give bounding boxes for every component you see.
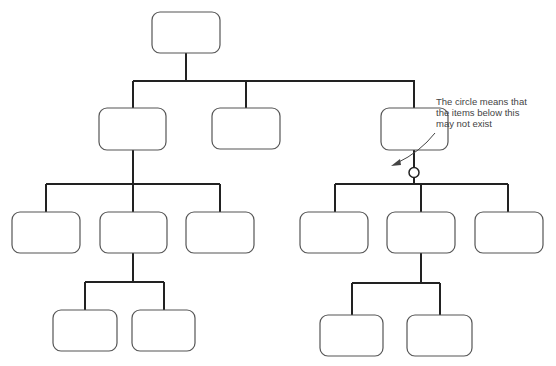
annotation-line-3: may not exist: [436, 118, 556, 129]
node-l2-right-3: [475, 212, 543, 253]
tree-diagram: [0, 0, 556, 366]
node-l2-left-1: [12, 212, 80, 253]
node-l1-middle: [212, 108, 280, 149]
node-l2-right-2: [387, 212, 455, 253]
node-l2-left-2: [100, 212, 167, 253]
arrowhead-icon: [391, 159, 401, 166]
node-root: [152, 12, 220, 53]
optional-circle-icon: [409, 168, 419, 178]
node-l3-right-2: [407, 315, 472, 356]
connectors: [46, 53, 508, 315]
node-l3-right-1: [320, 315, 383, 356]
node-l3-left-1: [53, 310, 117, 351]
node-l2-right-1: [300, 212, 368, 253]
node-l1-left: [99, 108, 166, 150]
node-l3-left-2: [132, 310, 195, 351]
annotation-note: The circle means that the items below th…: [436, 96, 556, 129]
node-l2-left-3: [186, 212, 254, 253]
annotation-line-2: the items below this: [436, 107, 556, 118]
annotation-line-1: The circle means that: [436, 96, 556, 107]
